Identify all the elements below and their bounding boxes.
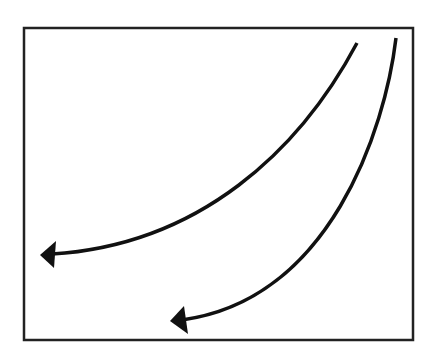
arrowhead-icon bbox=[40, 241, 56, 268]
lower-curved-arrow bbox=[170, 38, 396, 334]
arrowhead-icon bbox=[170, 306, 188, 334]
diagram-canvas bbox=[0, 0, 445, 351]
upper-curved-arrow bbox=[40, 43, 357, 268]
frame-border bbox=[24, 28, 413, 340]
